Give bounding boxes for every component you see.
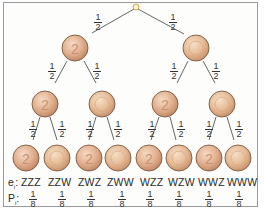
outcome-probability: 18 xyxy=(204,190,214,209)
svg-text:2: 2 xyxy=(41,97,49,113)
coin-level3-w xyxy=(166,145,192,171)
coin-level2-w xyxy=(209,91,235,117)
outcome-label: WWZ xyxy=(198,176,225,188)
coin-level2-w xyxy=(89,91,115,117)
coin-level1-z: 2 xyxy=(62,35,88,61)
branch-probability: 12 xyxy=(93,13,103,32)
outcome-probability: 18 xyxy=(57,190,67,209)
outcome-label: WWW xyxy=(227,176,257,188)
coin-level2-z: 2 xyxy=(32,91,58,117)
outcome-probability: 18 xyxy=(86,190,96,209)
outcome-probability: 18 xyxy=(145,190,155,209)
outcome-probability: 18 xyxy=(234,190,244,209)
coin-level1-w xyxy=(183,35,209,61)
branch-probability: 12 xyxy=(147,120,157,139)
outcome-row-label: ei: xyxy=(8,176,18,190)
coin-level3-z: 2 xyxy=(196,145,222,171)
probability-row-label: Pi: xyxy=(8,192,19,206)
branch-probability: 12 xyxy=(168,13,178,32)
branch-probability: 12 xyxy=(113,120,123,139)
coin-level3-w xyxy=(105,145,131,171)
branch-probability: 12 xyxy=(85,120,95,139)
branch-probability: 12 xyxy=(234,120,244,139)
coin-level2-z: 2 xyxy=(152,91,178,117)
branch-probability: 12 xyxy=(92,62,102,81)
branch-probability: 12 xyxy=(169,62,179,81)
branch-probability: 12 xyxy=(211,62,221,81)
coin-level3-w xyxy=(44,145,70,171)
branch-probability: 12 xyxy=(204,120,214,139)
svg-text:2: 2 xyxy=(71,41,79,57)
coin-level3-z: 2 xyxy=(136,145,162,171)
svg-text:2: 2 xyxy=(22,151,30,167)
svg-text:2: 2 xyxy=(145,151,153,167)
svg-text:2: 2 xyxy=(85,151,93,167)
outcome-label: WZW xyxy=(168,176,195,188)
root-node xyxy=(133,4,139,10)
outcome-label: WZZ xyxy=(140,176,163,188)
coin-level3-z: 2 xyxy=(13,145,39,171)
coin-level3-z: 2 xyxy=(76,145,102,171)
outcome-probability: 18 xyxy=(117,190,127,209)
outcome-label: ZWW xyxy=(107,176,134,188)
branch-probability: 12 xyxy=(28,120,38,139)
branch-probability: 12 xyxy=(47,62,57,81)
svg-text:2: 2 xyxy=(205,151,213,167)
outcome-label: ZWZ xyxy=(78,176,101,188)
outcome-label: ZZZ xyxy=(21,176,41,188)
branch-probability: 12 xyxy=(57,120,67,139)
coin-level3-w xyxy=(225,145,251,171)
outcome-probability: 18 xyxy=(174,190,184,209)
outcome-label: ZZW xyxy=(48,176,71,188)
svg-text:2: 2 xyxy=(161,97,169,113)
outcome-probability: 18 xyxy=(28,190,38,209)
branch-probability: 12 xyxy=(176,120,186,139)
